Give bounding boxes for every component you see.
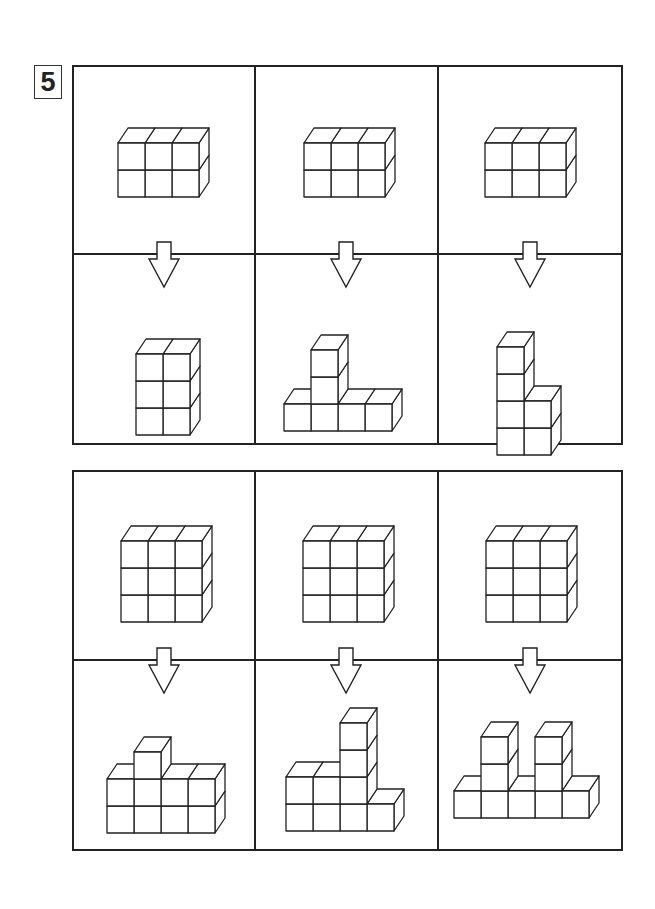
- result-cell: [256, 661, 438, 850]
- down-arrow-icon: [513, 241, 547, 289]
- result-cell: [74, 661, 256, 850]
- cube-figure: [74, 67, 254, 257]
- problem-number: 5: [34, 65, 62, 99]
- source-cell: [256, 67, 438, 255]
- down-arrow-icon: [329, 647, 363, 695]
- result-cell: [439, 255, 621, 443]
- source-cell: [74, 472, 256, 661]
- cube-figure: [256, 472, 436, 662]
- source-cell: [256, 472, 438, 661]
- result-cell: [439, 661, 621, 850]
- result-cell: [74, 255, 256, 443]
- result-cell: [256, 255, 438, 443]
- source-cell: [439, 472, 621, 661]
- down-arrow-icon: [329, 241, 363, 289]
- source-cell: [74, 67, 256, 255]
- down-arrow-icon: [147, 241, 181, 289]
- problem-number-text: 5: [40, 69, 55, 96]
- down-arrow-icon: [513, 647, 547, 695]
- down-arrow-icon: [147, 647, 181, 695]
- panel-bottom: [72, 470, 623, 851]
- cube-figure: [439, 67, 619, 257]
- cube-figure: [74, 472, 254, 662]
- cube-figure: [256, 67, 436, 257]
- source-cell: [439, 67, 621, 255]
- cube-figure: [439, 472, 619, 662]
- panel-top: [72, 65, 623, 445]
